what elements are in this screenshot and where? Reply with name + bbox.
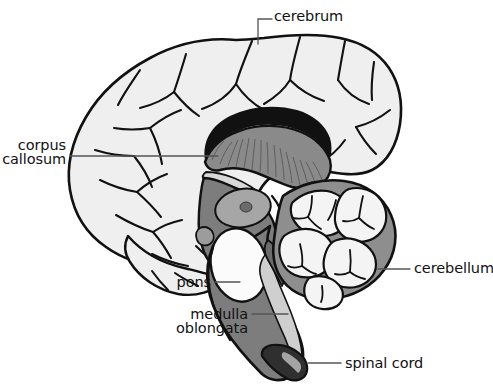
interthalamic-adhesion — [240, 202, 252, 212]
label-corpus-callosum: corpus callosum — [0, 138, 66, 166]
label-cerebrum: cerebrum — [274, 9, 343, 23]
label-cerebellum: cerebellum — [414, 261, 493, 275]
label-pons: pons — [140, 275, 211, 289]
cerebellum-group — [273, 180, 395, 309]
brain-diagram: cerebrum corpus callosum cerebellum pons… — [0, 0, 493, 389]
label-spinal-cord: spinal cord — [345, 356, 423, 370]
label-medulla-oblongata: medulla oblongata — [130, 307, 248, 335]
optic-chiasm — [196, 227, 214, 245]
